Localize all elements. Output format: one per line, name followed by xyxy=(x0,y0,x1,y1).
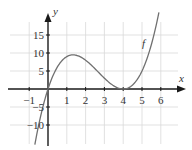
y-tick-label: −10 xyxy=(27,119,45,131)
x-tick-label: 5 xyxy=(139,94,145,106)
y-tick-label: 10 xyxy=(33,47,45,59)
y-tick-label: −5 xyxy=(32,101,44,113)
x-axis-label: x xyxy=(178,72,184,84)
x-tick-label: 4 xyxy=(120,94,126,106)
x-tick-label: 3 xyxy=(102,94,108,106)
y-axis-arrow-icon xyxy=(45,13,52,22)
x-axis-arrow-icon xyxy=(177,86,186,93)
curve-label-f: f xyxy=(142,37,147,49)
x-tick-label: 6 xyxy=(158,94,164,106)
y-tick-label: 15 xyxy=(33,29,45,41)
y-tick-label: 5 xyxy=(39,65,45,77)
x-tick-label: 2 xyxy=(83,94,89,106)
function-graph: x y f −1123456 15105−5−10 xyxy=(0,0,192,150)
x-tick-label: 1 xyxy=(64,94,70,106)
y-axis-label: y xyxy=(52,5,58,17)
